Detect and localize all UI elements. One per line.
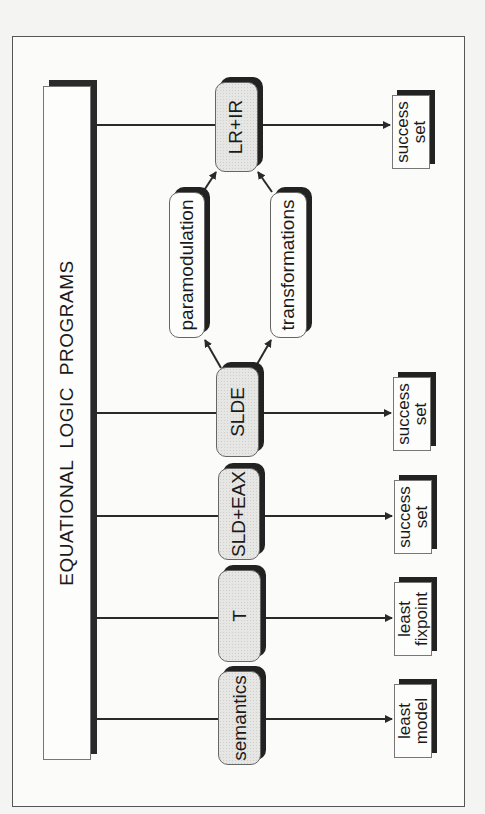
result-sld-eax: success set — [394, 480, 432, 554]
node-body: SLDE — [216, 367, 259, 457]
edge-slde-paramodulation — [205, 340, 221, 368]
node-label: semantics — [229, 675, 251, 761]
node-lr-ir: LR+IR — [215, 82, 258, 172]
node-body: semantics — [218, 671, 261, 765]
node-label: paramodulation — [176, 200, 198, 331]
result-body: least model — [394, 684, 432, 758]
result-label: least fixpoint — [396, 592, 430, 646]
node-sld-eax: SLD+EAX — [218, 468, 260, 560]
result-body: success set — [394, 480, 432, 554]
node-body: LR+IR — [215, 82, 258, 172]
node-label: T — [228, 610, 250, 622]
node-transformations: transformations — [270, 192, 307, 338]
result-label: success set — [396, 486, 430, 547]
result-label: success set — [394, 101, 428, 162]
result-lr-ir: success set — [392, 95, 430, 169]
result-slde: success set — [393, 377, 431, 451]
node-body: T — [218, 570, 261, 662]
node-body: transformations — [270, 192, 307, 338]
diagram-title: EQUATIONAL LOGIC PROGRAMS — [56, 260, 78, 585]
node-label: transformations — [278, 200, 300, 331]
result-semantics: least model — [394, 684, 432, 758]
node-semantics: semantics — [218, 671, 261, 765]
edge-transformations-lr-ir — [258, 172, 272, 192]
result-body: least fixpoint — [394, 582, 432, 656]
node-slde: SLDE — [216, 367, 259, 457]
result-body: success set — [393, 377, 431, 451]
result-label: success set — [395, 383, 429, 444]
node-t: T — [218, 570, 261, 662]
node-label: SLD+EAX — [228, 471, 250, 557]
node-body: paramodulation — [169, 192, 205, 338]
node-body: SLD+EAX — [218, 468, 260, 560]
result-body: success set — [392, 95, 430, 169]
node-label: SLDE — [227, 387, 249, 437]
node-paramodulation: paramodulation — [169, 192, 205, 338]
node-label: LR+IR — [226, 100, 248, 154]
result-label: least model — [396, 698, 430, 744]
diagram-canvas: EQUATIONAL LOGIC PROGRAMS LR+IR paramodu… — [0, 0, 485, 814]
header-label-wrap: EQUATIONAL LOGIC PROGRAMS — [43, 86, 91, 760]
result-t: least fixpoint — [394, 582, 432, 656]
